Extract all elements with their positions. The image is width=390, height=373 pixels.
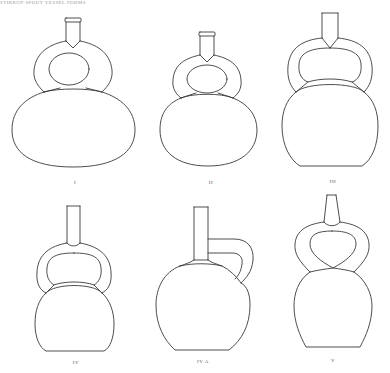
label-vessel-i: I — [74, 180, 76, 185]
vessel-iv — [35, 206, 114, 351]
vessel-iva — [156, 207, 253, 350]
vessel-i — [12, 18, 135, 167]
label-vessel-ii: II — [209, 180, 213, 185]
vessel-iii — [282, 13, 378, 166]
vessel-ii — [160, 32, 257, 166]
vessel-plate — [0, 0, 390, 373]
label-vessel-iv: IV — [73, 360, 79, 365]
label-vessel-iva: IV A — [197, 359, 209, 364]
label-vessel-v: V — [331, 358, 335, 363]
vessel-v — [294, 195, 372, 347]
label-vessel-iii: III — [330, 179, 337, 184]
